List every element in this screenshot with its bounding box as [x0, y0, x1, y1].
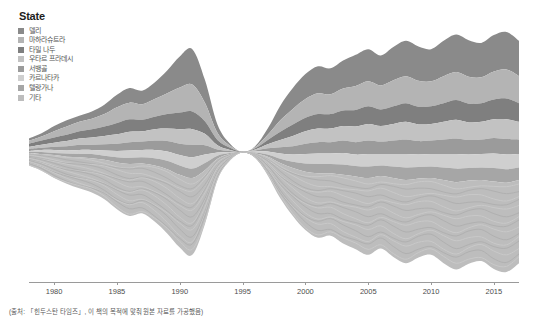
x-axis-tick-mark [368, 282, 369, 285]
legend-item-label: 기타 [29, 94, 41, 102]
legend-swatch-icon [18, 85, 24, 91]
legend-swatch-icon [18, 66, 24, 72]
x-axis-tick-mark [117, 282, 118, 285]
legend-swatch-icon [18, 75, 24, 81]
legend-swatch-icon [18, 28, 24, 34]
chart-plot-area [0, 0, 548, 290]
x-axis-tick-mark [54, 282, 55, 285]
streamgraph-figure: State 델리마하라슈트라타밀 나두우타르 프라데시서뱅골카르나타카텔랑가나기… [0, 0, 548, 323]
streamgraph-svg [0, 0, 548, 290]
legend-item[interactable]: 마하라슈트라 [18, 36, 73, 45]
legend-item-label: 마하라슈트라 [29, 36, 65, 44]
legend-item-label: 우타르 프라데시 [29, 55, 73, 63]
x-axis-tick-label: 2015 [486, 287, 503, 296]
legend-item[interactable]: 우타르 프라데시 [18, 55, 73, 64]
legend-item[interactable]: 타밀 나두 [18, 45, 73, 54]
legend-item-label: 델리 [29, 27, 41, 35]
legend-swatch-icon [18, 37, 24, 43]
x-axis-tick-mark [305, 282, 306, 285]
legend-item[interactable]: 기타 [18, 93, 73, 102]
legend-item-list: 델리마하라슈트라타밀 나두우타르 프라데시서뱅골카르나타카텔랑가나기타 [18, 26, 73, 102]
legend-item-label: 텔랑가나 [29, 84, 53, 92]
legend-item-label: 카르나타카 [29, 74, 59, 82]
legend-title: State [19, 10, 73, 22]
legend-item-label: 서뱅골 [29, 65, 47, 73]
legend-swatch-icon [18, 56, 24, 62]
x-axis-tick-mark [431, 282, 432, 285]
legend-item[interactable]: 카르나타카 [18, 74, 73, 83]
x-axis-tick-label: 1990 [171, 287, 188, 296]
x-axis-tick-label: 1995 [234, 287, 251, 296]
legend-item-label: 타밀 나두 [29, 46, 55, 54]
x-axis-tick-label: 2000 [297, 287, 314, 296]
chart-legend: State 델리마하라슈트라타밀 나두우타르 프라데시서뱅골카르나타카텔랑가나기… [18, 10, 73, 103]
legend-item[interactable]: 텔랑가나 [18, 83, 73, 92]
x-axis-tick-label: 1985 [109, 287, 126, 296]
x-axis-tick-label: 1980 [46, 287, 63, 296]
legend-swatch-icon [18, 95, 24, 101]
legend-swatch-icon [18, 47, 24, 53]
legend-item[interactable]: 서뱅골 [18, 64, 73, 73]
x-axis-tick-mark [180, 282, 181, 285]
x-axis-tick-mark [243, 282, 244, 285]
x-axis-tick-label: 2010 [423, 287, 440, 296]
source-footnote: (출처: 「힌두스탄 타임즈」, 이 책의 목적에 맞춰 원본 자료를 가공했음… [9, 307, 203, 317]
legend-item[interactable]: 델리 [18, 26, 73, 35]
x-axis-tick-mark [494, 282, 495, 285]
x-axis: 19801985199019952000200520102015 [0, 276, 548, 302]
x-axis-line [29, 282, 519, 283]
x-axis-tick-label: 2005 [360, 287, 377, 296]
